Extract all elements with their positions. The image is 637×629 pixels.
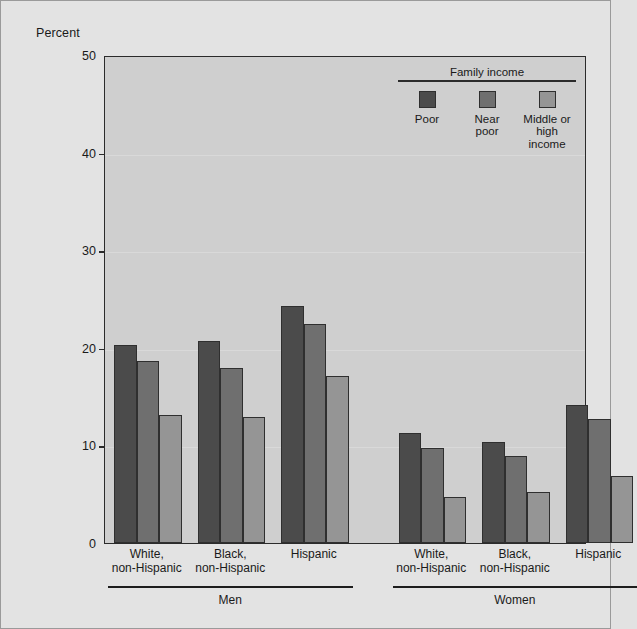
legend: Family income PoorNear poorMiddle or hig… — [398, 66, 576, 150]
group-rule — [108, 586, 353, 588]
bar — [611, 476, 634, 543]
bar — [482, 442, 505, 544]
legend-label: Middle or high income — [518, 113, 576, 151]
legend-swatch — [539, 91, 556, 108]
y-tick-label: 20 — [82, 342, 96, 356]
bar — [243, 417, 266, 543]
x-category-label: Black, non-Hispanic — [480, 548, 550, 575]
bar — [220, 368, 243, 543]
x-axis-category-labels: White, non-HispanicBlack, non-HispanicHi… — [104, 548, 586, 584]
bar — [326, 376, 349, 543]
bar — [505, 456, 528, 543]
group-rule — [393, 586, 637, 588]
bar — [566, 405, 589, 543]
x-category-label: White, non-Hispanic — [396, 548, 466, 575]
legend-item: Middle or high income — [518, 91, 576, 151]
x-category-label: Hispanic — [291, 548, 337, 562]
bar — [444, 497, 467, 543]
bar — [198, 341, 221, 543]
bar — [137, 361, 160, 543]
bar — [421, 448, 444, 543]
legend-label: Poor — [415, 113, 439, 126]
legend-divider — [398, 80, 576, 82]
legend-title: Family income — [398, 66, 576, 78]
y-tick-label: 10 — [82, 439, 96, 453]
group-label: Women — [494, 593, 535, 607]
bar — [281, 306, 304, 543]
x-category-label: Black, non-Hispanic — [195, 548, 265, 575]
legend-swatch — [479, 91, 496, 108]
bar — [588, 419, 611, 543]
y-tick-label: 40 — [82, 147, 96, 161]
legend-label: Near poor — [475, 113, 500, 138]
y-tick-label: 0 — [89, 537, 96, 551]
bar — [399, 433, 422, 543]
bar — [114, 345, 137, 543]
legend-items: PoorNear poorMiddle or high income — [398, 91, 576, 151]
bar — [527, 492, 550, 543]
y-axis-title: Percent — [36, 26, 80, 40]
legend-item: Poor — [398, 91, 456, 126]
legend-item: Near poor — [458, 91, 516, 138]
y-tick-label: 30 — [82, 244, 96, 258]
bar — [159, 415, 182, 543]
legend-swatch — [419, 91, 436, 108]
bar — [304, 324, 327, 543]
y-tick-label: 50 — [82, 49, 96, 63]
group-label: Men — [219, 593, 242, 607]
x-axis-group-labels: MenWomen — [104, 586, 586, 626]
x-category-label: Hispanic — [575, 548, 621, 562]
x-category-label: White, non-Hispanic — [112, 548, 182, 575]
